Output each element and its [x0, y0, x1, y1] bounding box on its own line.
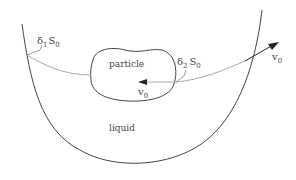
trajectory-left: [27, 55, 91, 75]
v0-outer-label: v0: [271, 51, 282, 65]
delta1-s0-label: δ1S0: [37, 35, 60, 49]
delta1-leader: [27, 45, 42, 55]
particle-label: particle: [109, 59, 144, 69]
v0-inner-label: v0: [137, 86, 148, 100]
delta2-s0-label: δ2S0: [177, 56, 201, 70]
delta2-leader: [176, 70, 186, 82]
liquid-label: liquid: [109, 123, 135, 133]
particle-in-liquid-diagram: δ1S0 particle v0 δ2S0 v0 liquid: [0, 0, 296, 180]
arrowhead-outer-icon: [268, 42, 279, 50]
velocity-arrow-outer: [245, 45, 273, 61]
arrowhead-inner-icon: [138, 79, 147, 85]
particle-outline: [91, 48, 176, 101]
